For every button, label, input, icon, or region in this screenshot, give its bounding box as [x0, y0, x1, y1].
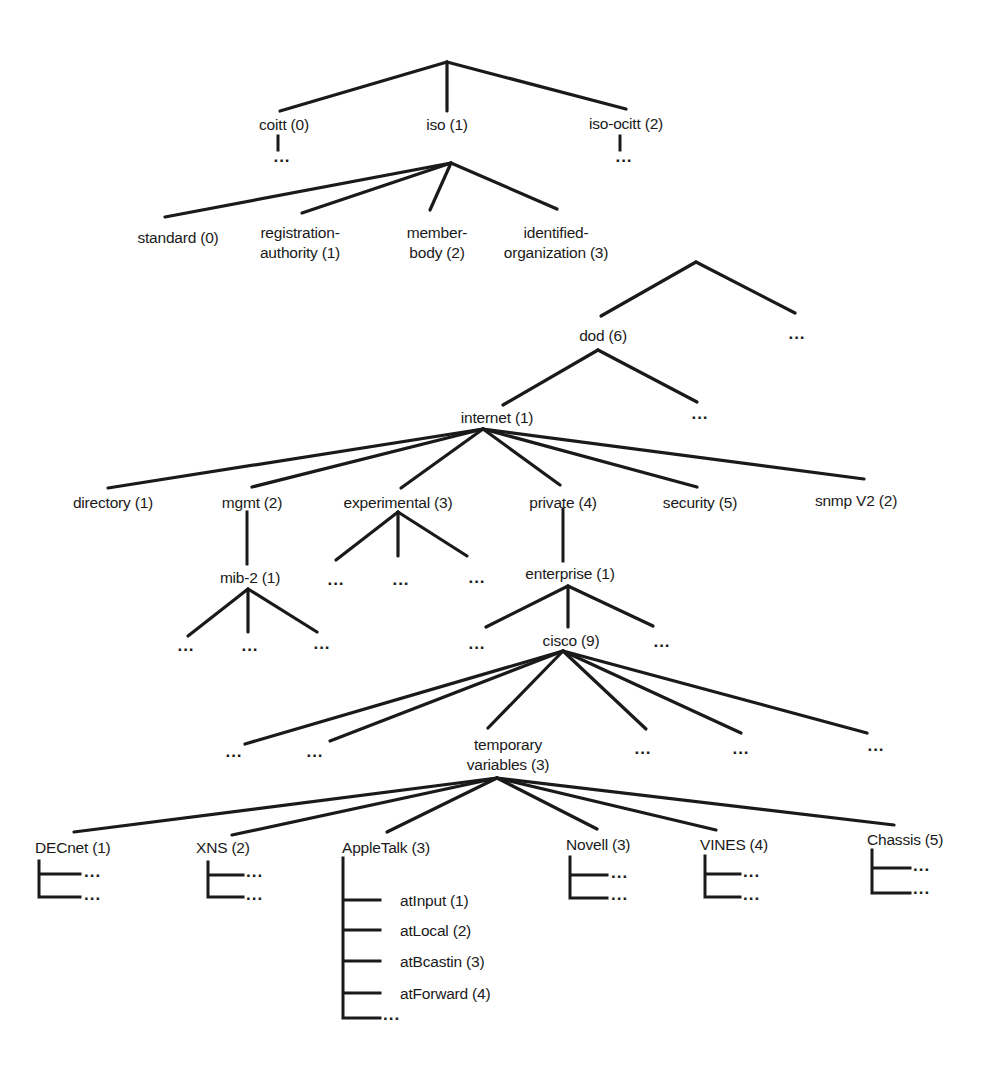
edges-chassis-children — [872, 850, 910, 893]
node-vines: VINES (4) — [700, 835, 768, 854]
node-iso: iso (1) — [426, 115, 468, 134]
node-at-forward: atForward (4) — [400, 984, 490, 1003]
ellipsis-appletalk: ... — [383, 1009, 400, 1021]
node-member-body-line2: body (2) — [409, 243, 464, 262]
node-chassis: Chassis (5) — [867, 830, 943, 849]
ellipsis-experimental-1: ... — [327, 574, 344, 586]
ellipsis-vines-2: ... — [743, 889, 760, 901]
ellipsis-iso-ocitt: ... — [615, 151, 632, 163]
edges-mib2 — [188, 589, 317, 636]
ellipsis-cisco-2: ... — [306, 746, 323, 758]
ellipsis-chassis-1: ... — [913, 860, 930, 872]
node-member-body-line1: member- — [407, 223, 468, 242]
ellipsis-mib2-3: ... — [313, 638, 330, 650]
ellipsis-novell-1: ... — [611, 867, 628, 879]
ellipsis-identified-organization: ... — [788, 328, 805, 340]
node-directory: directory (1) — [73, 493, 153, 512]
edges-experimental — [336, 512, 467, 560]
node-private: private (4) — [529, 493, 597, 512]
node-temporary-variables-line2: variables (3) — [467, 755, 550, 774]
node-dod: dod (6) — [579, 326, 627, 345]
edges-novell-children — [570, 857, 607, 898]
ellipsis-xns-2: ... — [246, 889, 263, 901]
node-identified-organization-line2: organization (3) — [504, 243, 609, 262]
edges-appletalk-children — [343, 858, 380, 1018]
node-mib-2: mib-2 (1) — [220, 568, 280, 587]
node-at-local: atLocal (2) — [400, 921, 471, 940]
ellipsis-mib2-1: ... — [177, 640, 194, 652]
edges-xns-children — [208, 862, 243, 897]
ellipsis-coitt: ... — [273, 151, 290, 163]
edges-cisco — [245, 651, 867, 744]
node-novell: Novell (3) — [566, 835, 630, 854]
node-registration-authority-line2: authority (1) — [260, 243, 340, 262]
node-cisco: cisco (9) — [543, 631, 600, 650]
node-snmp-v2: snmp V2 (2) — [815, 491, 897, 510]
node-standard: standard (0) — [137, 228, 218, 247]
node-registration-authority-line1: registration- — [260, 223, 339, 242]
node-xns: XNS (2) — [196, 838, 250, 857]
ellipsis-cisco-3: ... — [634, 743, 651, 755]
node-iso-ocitt: iso-ocitt (2) — [589, 114, 663, 133]
edges-enterprise — [486, 586, 653, 627]
node-decnet: DECnet (1) — [35, 838, 111, 857]
node-mgmt: mgmt (2) — [222, 493, 282, 512]
edges-dod — [503, 350, 697, 405]
edges-internet — [108, 429, 864, 488]
ellipsis-enterprise-1: ... — [468, 638, 485, 650]
edges-temporary-variables — [74, 778, 894, 835]
ellipsis-vines-1: ... — [743, 866, 760, 878]
node-at-bcastin: atBcastin (3) — [400, 952, 484, 971]
ellipsis-dod: ... — [691, 408, 708, 420]
node-temporary-variables-line1: temporary — [474, 735, 542, 754]
edges-root — [280, 62, 626, 111]
node-enterprise: enterprise (1) — [525, 564, 614, 583]
node-experimental: experimental (3) — [344, 493, 453, 512]
node-coitt: coitt (0) — [259, 115, 309, 134]
ellipsis-cisco-4: ... — [732, 743, 749, 755]
oid-tree-lines — [0, 0, 983, 1073]
node-at-input: atInput (1) — [400, 891, 468, 910]
ellipsis-decnet-2: ... — [84, 889, 101, 901]
edges-vines-children — [705, 856, 740, 897]
edges-decnet-children — [39, 861, 80, 897]
ellipsis-novell-2: ... — [611, 889, 628, 901]
ellipsis-cisco-5: ... — [867, 740, 884, 752]
node-security: security (5) — [663, 493, 737, 512]
edges-identified-organization — [601, 262, 795, 316]
ellipsis-chassis-2: ... — [913, 883, 930, 895]
ellipsis-enterprise-2: ... — [653, 636, 670, 648]
edges-iso — [165, 163, 557, 217]
ellipsis-mib2-2: ... — [241, 640, 258, 652]
ellipsis-decnet-1: ... — [84, 866, 101, 878]
ellipsis-xns-1: ... — [246, 866, 263, 878]
node-internet: internet (1) — [461, 408, 534, 427]
ellipsis-cisco-1: ... — [225, 746, 242, 758]
node-identified-organization-line1: identified- — [523, 223, 588, 242]
ellipsis-experimental-2: ... — [392, 574, 409, 586]
node-appletalk: AppleTalk (3) — [342, 838, 430, 857]
ellipsis-experimental-3: ... — [468, 572, 485, 584]
